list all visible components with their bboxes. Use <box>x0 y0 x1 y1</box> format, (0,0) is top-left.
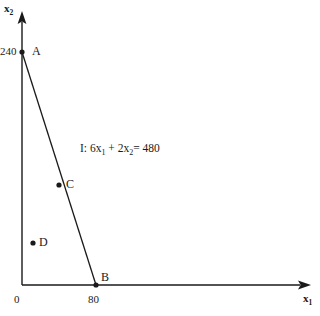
point-label-b: B <box>101 271 109 283</box>
origin-label: 0 <box>14 294 20 305</box>
y-tick-label-240: 240 <box>0 46 17 57</box>
point-label-c: C <box>66 178 74 190</box>
constraint-term-x1-subscript: 1 <box>101 148 105 157</box>
constraint-equals-operator: = <box>133 142 140 154</box>
y-axis-label: x2 <box>4 3 13 17</box>
constraint-rhs-value: 480 <box>143 142 160 154</box>
x-axis-label: x1 <box>303 293 312 307</box>
x-axis <box>22 281 311 290</box>
point-label-d: D <box>39 236 48 248</box>
constraint-id-prefix: I: <box>80 142 87 154</box>
point-label-a: A <box>32 45 41 57</box>
diagram-canvas: x2 x1 240 0 80 A B C D I: 6x1 + 2x2= 480 <box>0 0 320 316</box>
point-marker-b <box>93 282 98 287</box>
constraint-term-x1: 6x <box>90 142 102 154</box>
point-marker-d <box>30 240 35 245</box>
x-tick-label-80: 80 <box>88 294 99 305</box>
plot-area <box>0 0 320 316</box>
constraint-plus-operator: + <box>108 142 115 154</box>
x-axis-label-subscript: 1 <box>309 298 313 307</box>
constraint-equation-label: I: 6x1 + 2x2= 480 <box>80 143 160 157</box>
point-marker-a <box>19 49 24 54</box>
point-marker-c <box>56 182 61 187</box>
constraint-term-x2: 2x <box>118 142 130 154</box>
constraint-line-I <box>22 52 96 285</box>
y-axis-label-subscript: 2 <box>10 8 14 17</box>
